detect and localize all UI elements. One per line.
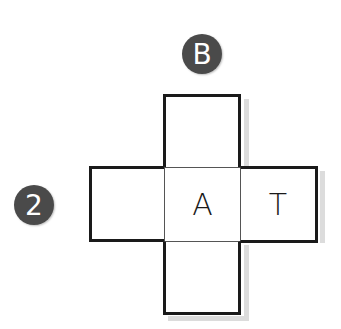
badge-label: 2 <box>25 189 43 222</box>
cube-net-diagram: A T B 2 <box>0 0 341 329</box>
net-cell-center: A <box>164 167 241 242</box>
shadow-right <box>320 171 325 243</box>
badge-2: 2 <box>14 185 54 225</box>
cell-label: A <box>192 187 213 222</box>
badge-b: B <box>182 34 222 74</box>
shadow-top <box>244 99 249 169</box>
net-cell-left <box>89 166 165 242</box>
badge-label: B <box>192 38 211 71</box>
net-cell-top <box>163 94 241 168</box>
cell-label: T <box>269 187 287 222</box>
net-cell-right: T <box>240 166 318 243</box>
net-cell-bottom <box>163 241 241 315</box>
shadow-bottom-right <box>244 245 249 320</box>
shadow-bottom <box>168 316 249 321</box>
